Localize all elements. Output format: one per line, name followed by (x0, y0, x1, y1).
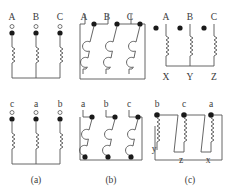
panel-b: A B C a b c (76, 0, 156, 189)
polarity-dot (154, 112, 160, 118)
terminal-label-b-top-1: B (104, 12, 110, 22)
polarity-dot (128, 154, 133, 159)
figure-canvas: A B C c a b (0, 0, 230, 189)
polarity-dot (33, 116, 38, 121)
terminal-label-c-top-1: B (187, 12, 193, 22)
polarity-dot (57, 116, 62, 121)
terminal-label-a-top-2: C (57, 12, 63, 22)
panel-a: A B C c a b (2, 0, 82, 189)
panel-b-bottom-winding: a b c (b) (80, 99, 142, 186)
polarity-dot (181, 112, 187, 118)
panel-c-top-winding: A B C X Y Z (153, 12, 217, 82)
terminal-label-c-bot-0: b (155, 99, 160, 109)
polarity-dot (201, 25, 206, 30)
terminal-label-a-bot-2: b (58, 99, 63, 109)
terminal-label-c-top-2: C (211, 12, 217, 22)
panel-a-bottom-winding: c a b (a) (9, 99, 63, 186)
terminal-label-b-bot-2: c (127, 99, 131, 109)
terminal-label-a-top-0: A (9, 12, 16, 22)
polarity-dot (137, 21, 142, 26)
terminal-open-circle (10, 111, 14, 115)
terminal-label-c-bot-x: x (206, 155, 211, 165)
panel-c: A B C X Y Z b c a (150, 0, 230, 189)
polarity-dot (114, 21, 119, 26)
panel-caption-a: (a) (31, 175, 42, 186)
terminal-label-c-bot-1: c (182, 99, 186, 109)
polarity-dot (9, 30, 14, 35)
polarity-dot (135, 114, 140, 119)
terminal-label-b-bot-0: a (81, 99, 86, 109)
terminal-label-c-top-y: Y (187, 72, 194, 82)
terminal-open-circle (10, 25, 14, 29)
polarity-dot (89, 114, 94, 119)
terminal-label-b-bot-1: b (104, 99, 109, 109)
polarity-dot (177, 25, 182, 30)
terminal-label-c-top-x: X (163, 72, 170, 82)
terminal-label-a-top-1: B (33, 12, 39, 22)
panel-caption-c: (c) (185, 175, 196, 186)
terminal-label-c-top-z: Z (211, 72, 217, 82)
polarity-dot (208, 112, 214, 118)
terminal-open-circle (34, 111, 38, 115)
terminal-open-circle (34, 25, 38, 29)
terminal-label-a-bot-0: c (10, 99, 14, 109)
panel-b-top-winding: A B C (80, 12, 145, 79)
polarity-dot (105, 154, 110, 159)
panel-c-bottom-winding: b c a y z x (c) (152, 99, 222, 186)
polarity-dot (153, 25, 158, 30)
polarity-dot (9, 116, 14, 121)
terminal-open-circle (58, 111, 62, 115)
terminal-label-c-bot-2: a (209, 99, 214, 109)
terminal-label-b-top-2: C (127, 12, 133, 22)
terminal-label-c-bot-y: y (152, 144, 157, 154)
terminal-open-circle (58, 25, 62, 29)
polarity-dot (57, 30, 62, 35)
panel-caption-b: (b) (105, 175, 116, 186)
polarity-dot (33, 30, 38, 35)
terminal-label-c-bot-z: z (179, 155, 183, 165)
terminal-label-a-bot-1: a (34, 99, 39, 109)
terminal-label-c-top-0: A (163, 12, 170, 22)
panel-a-top-winding: A B C (9, 12, 64, 78)
polarity-dot (91, 21, 96, 26)
polarity-dot (82, 154, 87, 159)
terminal-label-b-top-0: A (81, 12, 88, 22)
polarity-dot (112, 114, 117, 119)
